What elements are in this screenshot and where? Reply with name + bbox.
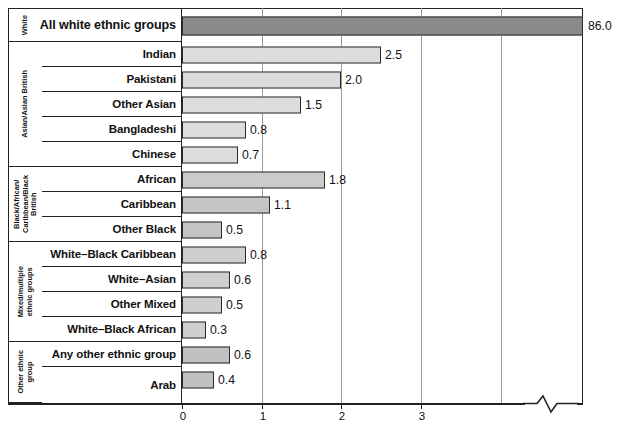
bar-area: 1.8 (182, 167, 631, 192)
bar-value: 0.4 (216, 373, 235, 387)
bar-value: 0.6 (232, 273, 251, 287)
group-label: White (21, 15, 30, 35)
bar[interactable] (182, 46, 381, 63)
bar-area: 2.5 (182, 42, 631, 67)
table-row: All white ethnic groups 86.0 (42, 9, 631, 42)
bar[interactable] (182, 346, 230, 363)
row-label-box: All white ethnic groups (42, 9, 182, 42)
row-label: Arab (150, 379, 176, 391)
row-label-box: Any other ethnic group (42, 342, 182, 367)
bar-value: 0.8 (248, 123, 267, 137)
bar[interactable] (182, 171, 325, 188)
row-label: African (137, 173, 176, 185)
row-label-box: Indian (42, 42, 182, 67)
row-label: Pakistani (126, 73, 176, 85)
bar[interactable] (182, 371, 214, 388)
row-label-box: Bangladeshi (42, 117, 182, 142)
row-label: Indian (143, 48, 176, 60)
bar[interactable] (182, 196, 270, 213)
x-tick-label-2: 2 (339, 410, 345, 422)
table-row: Other Mixed 0.5 (42, 292, 631, 317)
table-row: Bangladeshi 0.8 (42, 117, 631, 142)
bar-value: 0.8 (248, 248, 267, 262)
group-label: Mixed/multiple ethnic groups (17, 266, 34, 317)
table-row: Chinese 0.7 (42, 142, 631, 167)
row-label: White–Asian (108, 273, 176, 285)
bar-value: 86.0 (586, 19, 612, 33)
bar-area: 0.5 (182, 292, 631, 317)
bar-area: 0.6 (182, 342, 631, 367)
row-label-box: African (42, 167, 182, 192)
row-label: Other Asian (112, 98, 176, 110)
bar-value: 0.3 (208, 323, 227, 337)
group-band-other: Other ethnic group (9, 342, 42, 403)
row-label-box: White–Black African (42, 317, 182, 342)
x-tick-label-3: 3 (419, 410, 425, 422)
row-label: Chinese (132, 148, 176, 160)
row-label: Bangladeshi (109, 123, 176, 135)
bar-value: 2.0 (343, 73, 362, 87)
table-row: Indian 2.5 (42, 42, 631, 67)
x-tick-label-1: 1 (260, 410, 266, 422)
bar-value: 2.5 (383, 48, 402, 62)
x-tick-1 (262, 403, 263, 409)
bar[interactable] (182, 321, 206, 338)
bar[interactable] (182, 221, 222, 238)
bar-area: 2.0 (182, 67, 631, 92)
row-label-box: Chinese (42, 142, 182, 167)
row-label-box: Other Asian (42, 92, 182, 117)
bar[interactable] (182, 146, 238, 163)
table-row: White–Black Caribbean 0.8 (42, 242, 631, 267)
bar[interactable] (182, 246, 246, 263)
group-band-mixed: Mixed/multiple ethnic groups (9, 242, 42, 342)
table-row: Other Asian 1.5 (42, 92, 631, 117)
group-band-white: White (9, 9, 42, 42)
row-label: Other Black (113, 223, 176, 235)
table-row: White–Black African 0.3 (42, 317, 631, 342)
bar-value: 1.5 (303, 98, 322, 112)
table-row: Any other ethnic group 0.6 (42, 342, 631, 367)
bar[interactable] (182, 121, 246, 138)
bar-area: 1.5 (182, 92, 631, 117)
group-label: Other ethnic group (17, 350, 34, 394)
table-row: African 1.8 (42, 167, 631, 192)
bar-area: 1.1 (182, 192, 631, 217)
bar[interactable] (182, 296, 222, 313)
bar-area: 0.5 (182, 217, 631, 242)
table-row: White–Asian 0.6 (42, 267, 631, 292)
group-label: Asian/Asian British (21, 70, 30, 138)
bar-area: 0.3 (182, 317, 631, 342)
row-label: Other Mixed (111, 298, 176, 310)
bar[interactable] (182, 71, 341, 88)
row-label-box: Other Black (42, 217, 182, 242)
bar[interactable] (182, 16, 583, 35)
row-label-box: Caribbean (42, 192, 182, 217)
bar-area: 0.8 (182, 242, 631, 267)
bar-value: 1.1 (272, 198, 291, 212)
bar-chart: White Asian/Asian British Black/African/… (0, 0, 631, 434)
x-tick-0 (182, 403, 183, 409)
row-label-box: Arab (42, 367, 182, 403)
row-label-box: Other Mixed (42, 292, 182, 317)
bar-value: 1.8 (327, 173, 346, 187)
table-row: Other Black 0.5 (42, 217, 631, 242)
x-tick-2 (341, 403, 342, 409)
x-tick-label-0: 0 (180, 410, 186, 422)
row-label: Any other ethnic group (52, 348, 176, 360)
row-label-box: White–Asian (42, 267, 182, 292)
bar-value: 0.6 (232, 348, 251, 362)
row-label-box: Pakistani (42, 67, 182, 92)
group-band-black: Black/African/ Caribbean/Black British (9, 167, 42, 242)
bar-area: 0.7 (182, 142, 631, 167)
row-label: Caribbean (121, 198, 176, 210)
bar-area: 0.8 (182, 117, 631, 142)
bar[interactable] (182, 96, 301, 113)
group-label: Black/African/ Caribbean/Black British (13, 175, 39, 233)
group-band-asian: Asian/Asian British (9, 42, 42, 167)
axis-break-icon (521, 392, 581, 416)
row-label-box: White–Black Caribbean (42, 242, 182, 267)
x-tick-3 (421, 403, 422, 409)
row-label: White–Black African (67, 323, 176, 335)
bar-value: 0.5 (224, 298, 243, 312)
bar[interactable] (182, 271, 230, 288)
